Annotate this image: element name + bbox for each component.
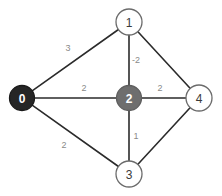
edges-group — [32, 29, 191, 167]
graph-edge-0-1 — [32, 29, 119, 91]
graph-node-label-0: 0 — [19, 92, 26, 106]
edge-weight-0-3: 2 — [61, 140, 66, 150]
graph-edge-3-4 — [137, 107, 190, 165]
graph-node-1[interactable]: 1 — [116, 9, 142, 35]
graph-edge-0-3 — [32, 105, 119, 167]
edge-weight-0-1: 3 — [65, 43, 70, 53]
edge-weight-2-3: 1 — [133, 131, 138, 141]
graph-node-label-2: 2 — [126, 92, 133, 106]
edge-weight-2-4: 2 — [157, 83, 162, 93]
graph-node-4[interactable]: 4 — [186, 85, 212, 111]
graph-node-label-4: 4 — [196, 92, 203, 106]
graph-node-3[interactable]: 3 — [116, 161, 142, 187]
graph-node-2[interactable]: 2 — [117, 86, 142, 111]
graph-node-0[interactable]: 0 — [10, 86, 35, 111]
graph-node-label-3: 3 — [126, 168, 133, 182]
graph-node-label-1: 1 — [126, 16, 133, 30]
edge-weight-0-2: 2 — [81, 83, 86, 93]
edge-weight-1-2: -2 — [132, 55, 140, 65]
graph-canvas: 01234 322-221 — [0, 0, 222, 196]
graph-figure: 01234 322-221 — [0, 0, 222, 196]
graph-edge-1-4 — [137, 31, 190, 89]
